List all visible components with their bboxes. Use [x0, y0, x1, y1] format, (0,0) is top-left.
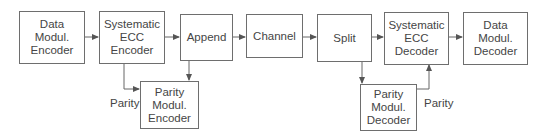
block-label: Append [187, 31, 227, 44]
systematic-ecc-decoder-block: Systematic ECC Decoder [384, 12, 449, 65]
parity-label-encoder: Parity [110, 97, 139, 109]
block-label: Parity Modul. Encoder [148, 86, 191, 125]
parity-label-decoder: Parity [424, 97, 453, 109]
systematic-ecc-encoder-block: Systematic ECC Encoder [99, 11, 165, 64]
block-label: Split [333, 32, 355, 45]
parity-modul-decoder-block: Parity Modul. Decoder [360, 84, 417, 131]
block-label: Data Modul. Encoder [31, 18, 74, 57]
block-label: Systematic ECC Decoder [388, 19, 444, 58]
parity-modul-encoder-block: Parity Modul. Encoder [140, 81, 199, 129]
channel-block: Channel [246, 14, 303, 58]
data-modul-encoder-block: Data Modul. Encoder [19, 11, 85, 64]
append-block: Append [180, 14, 233, 61]
split-block: Split [317, 14, 372, 62]
block-label: Systematic ECC Encoder [104, 18, 160, 57]
data-modul-decoder-block: Data Modul. Decoder [463, 12, 528, 65]
block-label: Parity Modul. Decoder [367, 88, 410, 127]
block-label: Data Modul. Decoder [474, 19, 517, 58]
block-label: Channel [253, 30, 296, 43]
